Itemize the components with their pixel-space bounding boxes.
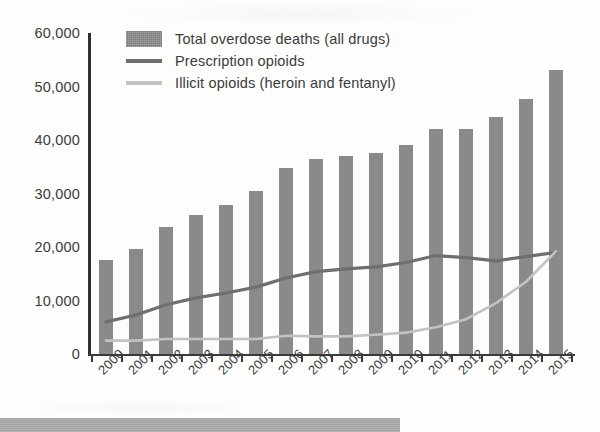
y-axis-tick-label: 40,000 [8, 132, 80, 148]
y-axis-tick-label: 0 [8, 346, 80, 362]
footer-band [0, 418, 400, 432]
y-axis-tick-label: 60,000 [8, 25, 80, 41]
line-series-layer [88, 33, 575, 356]
y-axis-tick-label: 30,000 [8, 186, 80, 202]
y-axis-tick-label: 10,000 [8, 293, 80, 309]
plot-area: 010,00020,00030,00040,00050,00060,000 20… [88, 33, 575, 356]
x-axis-tick [91, 354, 93, 362]
y-axis-tick-label: 20,000 [8, 239, 80, 255]
y-axis-tick-label: 50,000 [8, 79, 80, 95]
line-series-illicit-opioids [106, 251, 556, 340]
chart-page: Total overdose deaths (all drugs) Prescr… [0, 0, 600, 432]
line-series-prescription-opioids [106, 252, 556, 322]
